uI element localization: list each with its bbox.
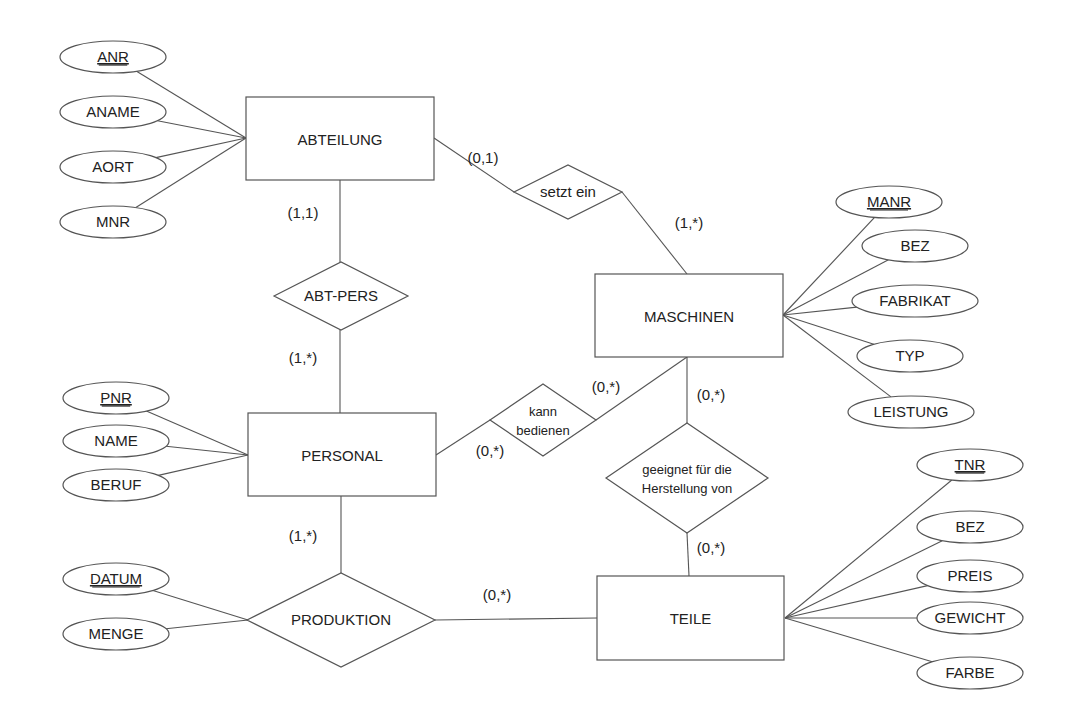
entity-label: TEILE xyxy=(670,610,712,627)
cardinality-label: (0,*) xyxy=(483,586,511,603)
attribute-label: LEISTUNG xyxy=(873,403,948,420)
attribute-abteilung-aort[interactable]: AORT xyxy=(60,151,166,183)
attribute-line-tnr xyxy=(785,480,952,618)
attribute-produktion-menge[interactable]: MENGE xyxy=(63,618,169,650)
cardinality-label: (0,*) xyxy=(697,539,725,556)
attribute-personal-pnr[interactable]: PNR xyxy=(63,382,169,414)
relationship-abt-pers[interactable]: ABT-PERS xyxy=(274,262,408,330)
relationship-label: Herstellung von xyxy=(642,481,732,496)
attribute-personal-beruf[interactable]: BERUF xyxy=(63,469,169,501)
entity-maschinen[interactable]: MASCHINEN xyxy=(595,274,783,357)
attribute-label: FABRIKAT xyxy=(879,292,950,309)
relationship-produktion[interactable]: PRODUKTION xyxy=(247,573,435,667)
relationship-label: kann xyxy=(529,404,557,419)
cardinality-label: (0,*) xyxy=(697,386,725,403)
attribute-label: MENGE xyxy=(88,625,143,642)
attribute-teile-preis[interactable]: PREIS xyxy=(917,560,1023,592)
attribute-abteilung-anr[interactable]: ANR xyxy=(60,41,166,73)
primary-key-label: ANR xyxy=(97,48,129,65)
cardinality-label: (0,*) xyxy=(476,442,504,459)
primary-key-label: DATUM xyxy=(90,570,142,587)
relationship-kann-bedienen[interactable]: kannbedienen xyxy=(490,384,596,456)
primary-key-label: PNR xyxy=(100,389,132,406)
cardinality-label: (1,*) xyxy=(289,527,317,544)
attribute-label: MNR xyxy=(96,213,130,230)
attribute-maschinen-manr[interactable]: MANR xyxy=(836,186,942,218)
attribute-line-farbe xyxy=(785,618,932,662)
relationship-setzt-ein[interactable]: setzt ein xyxy=(514,165,622,219)
entity-label: ABTEILUNG xyxy=(297,131,382,148)
attribute-teile-tnr[interactable]: TNR xyxy=(917,449,1023,481)
attribute-teile-farbe[interactable]: FARBE xyxy=(917,657,1023,689)
entities: ABTEILUNGMASCHINENPERSONALTEILE xyxy=(246,97,784,660)
relationship-label: PRODUKTION xyxy=(291,611,391,628)
relationship-geeignet[interactable]: geeignet für dieHerstellung von xyxy=(606,423,768,533)
attributes: ANRANAMEAORTMNRMANRBEZFABRIKATTYPLEISTUN… xyxy=(60,41,1023,689)
attribute-label: BEZ xyxy=(900,237,929,254)
attribute-line-name xyxy=(166,446,248,455)
relationship-label: setzt ein xyxy=(540,183,596,200)
relationship-diamond xyxy=(606,423,768,533)
attribute-line-beruf xyxy=(158,455,248,475)
attribute-maschinen-bez[interactable]: BEZ xyxy=(862,230,968,262)
connection-geeignet-teile xyxy=(687,533,689,576)
attribute-label: BEZ xyxy=(955,518,984,535)
attribute-line-menge xyxy=(166,620,248,629)
attribute-label: PREIS xyxy=(947,567,992,584)
attribute-label: FARBE xyxy=(945,664,994,681)
attribute-maschinen-leistung[interactable]: LEISTUNG xyxy=(848,396,974,428)
primary-key-label: TNR xyxy=(955,456,986,473)
attribute-line-aort xyxy=(156,138,246,158)
attribute-label: ANAME xyxy=(86,103,139,120)
entity-personal[interactable]: PERSONAL xyxy=(248,413,436,496)
relationship-label: ABT-PERS xyxy=(304,287,378,304)
cardinality-label: (1,*) xyxy=(675,214,703,231)
attribute-teile-gewicht[interactable]: GEWICHT xyxy=(917,602,1023,634)
connection-produktion-teile xyxy=(435,618,597,620)
attribute-label: TYP xyxy=(895,347,924,364)
cardinality-label: (1,1) xyxy=(288,204,319,221)
relationship-diamond xyxy=(490,384,596,456)
attribute-teile-bez[interactable]: BEZ xyxy=(917,511,1023,543)
entity-label: MASCHINEN xyxy=(644,308,734,325)
entity-label: PERSONAL xyxy=(301,447,383,464)
cardinality-label: (1,*) xyxy=(289,349,317,366)
connection-setzt-ein-maschinen xyxy=(622,192,687,274)
primary-key-label: MANR xyxy=(867,193,911,210)
connection-lines xyxy=(340,138,689,620)
attribute-label: AORT xyxy=(92,158,133,175)
attribute-personal-name[interactable]: NAME xyxy=(63,425,169,457)
relationship-label: bedienen xyxy=(516,423,570,438)
attribute-label: NAME xyxy=(94,432,137,449)
cardinality-label: (0,*) xyxy=(592,378,620,395)
attribute-line-typ xyxy=(783,315,874,344)
entity-abteilung[interactable]: ABTEILUNG xyxy=(246,97,434,180)
attribute-line-preis xyxy=(785,586,928,618)
attribute-abteilung-aname[interactable]: ANAME xyxy=(60,96,166,128)
entity-teile[interactable]: TEILE xyxy=(597,576,784,660)
attribute-label: GEWICHT xyxy=(935,609,1006,626)
attribute-produktion-datum[interactable]: DATUM xyxy=(63,563,169,595)
attribute-maschinen-fabrikat[interactable]: FABRIKAT xyxy=(852,285,978,317)
attribute-line-datum xyxy=(153,590,248,620)
relationship-label: geeignet für die xyxy=(642,462,732,477)
attribute-maschinen-typ[interactable]: TYP xyxy=(857,340,963,372)
attribute-line-fabrikat xyxy=(783,307,857,315)
attribute-abteilung-mnr[interactable]: MNR xyxy=(60,206,166,238)
cardinality-label: (0,1) xyxy=(468,149,499,166)
attribute-label: BERUF xyxy=(91,476,142,493)
er-diagram-canvas: ABTEILUNGMASCHINENPERSONALTEILE setzt ei… xyxy=(0,0,1078,726)
